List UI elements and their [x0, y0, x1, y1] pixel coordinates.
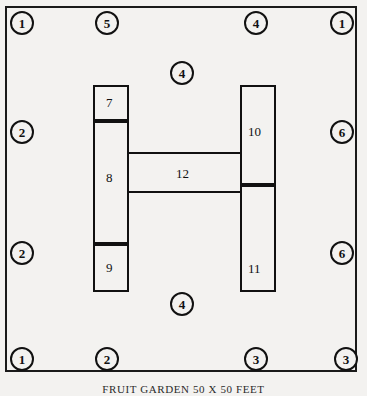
plot-marker-top-right: 1 — [330, 11, 354, 35]
fruit-garden-plan-page: 789101112 15414262641233 FRUIT GARDEN 50… — [0, 0, 367, 396]
bed-8-label: 8 — [106, 171, 113, 184]
plot-marker-left-upper: 2 — [10, 120, 34, 144]
plot-marker-left-lower: 2 — [10, 241, 34, 265]
plot-marker-bottom-center-left: 2 — [95, 347, 119, 371]
bed-9-label: 9 — [106, 261, 113, 274]
plot-marker-top-center-left: 5 — [95, 11, 119, 35]
plot-marker-center-upper: 4 — [170, 61, 194, 85]
bed-10-label: 10 — [248, 125, 261, 138]
plot-marker-right-upper: 6 — [330, 120, 354, 144]
bed-12-label: 12 — [176, 167, 189, 180]
plot-marker-bottom-right: 3 — [334, 347, 358, 371]
plot-marker-bottom-left: 1 — [10, 347, 34, 371]
bed-11-label: 11 — [248, 262, 261, 275]
plot-marker-center-lower: 4 — [170, 292, 194, 316]
plan-caption: FRUIT GARDEN 50 X 50 FEET — [0, 383, 367, 395]
plot-marker-right-lower: 6 — [330, 241, 354, 265]
bed-7-label: 7 — [106, 96, 113, 109]
plot-marker-top-left: 1 — [10, 11, 34, 35]
plot-marker-bottom-center-right: 3 — [244, 347, 268, 371]
plot-marker-top-center-right: 4 — [244, 11, 268, 35]
